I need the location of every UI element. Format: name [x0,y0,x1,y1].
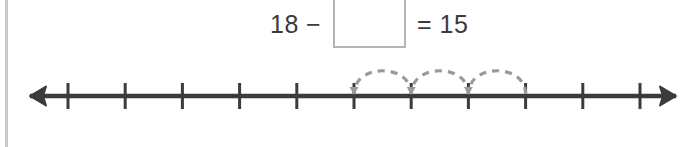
axis-right-arrowhead [660,87,676,106]
equation-result: = 15 [417,10,468,39]
axis-left-arrowhead [30,87,46,106]
answer-input-box[interactable] [333,0,406,48]
hop-arc [411,71,468,94]
hop-arc [468,71,525,94]
number-line: 1011121314151617181920 [0,52,698,147]
hop-arc [354,71,411,94]
number-line-graphic [0,52,698,147]
equation-row: 18 − = 15 [0,0,698,56]
equation-left-operand: 18 [270,10,299,39]
minus-operator: − [306,10,321,39]
worksheet-problem: 18 − = 15 1011121314151617181920 [0,0,698,147]
